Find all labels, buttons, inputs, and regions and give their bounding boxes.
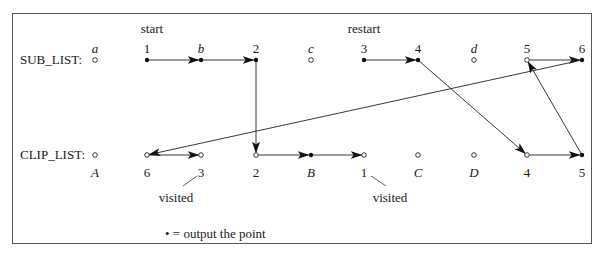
sub-list-point-4 [416, 58, 420, 62]
clip-list-label-A: A [91, 166, 99, 179]
clip-list-point-6 [145, 153, 150, 158]
diagram-graph [0, 0, 604, 258]
clip-list-label-2: 2 [253, 166, 260, 179]
clip-list-point-5 [580, 153, 584, 157]
sub-list-label-6: 6 [579, 42, 586, 55]
sub-list-label-d: d [471, 42, 478, 55]
visited-leader-line [371, 176, 386, 186]
sub-list-point-2 [254, 58, 258, 62]
sub-list-label-5: 5 [524, 42, 531, 55]
legend: • = output the point [165, 227, 266, 240]
clip-list-point-C [416, 153, 421, 158]
visited-annotation-3: visited [159, 191, 194, 204]
clip-list-point-4 [525, 153, 530, 158]
sub-list-point-3 [362, 58, 366, 62]
clip-list-point-2 [254, 153, 259, 158]
clip-list-label-C: C [414, 166, 423, 179]
filled-dot-icon: • [165, 226, 170, 241]
clip-list-label-B: B [307, 166, 315, 179]
edge-arrow [528, 62, 582, 155]
restart-annotation: restart [348, 22, 380, 35]
visited-annotation-1: visited [373, 191, 408, 204]
clip-list-label-1: 1 [361, 166, 368, 179]
sub-list-label-a: a [92, 42, 99, 55]
sub-list-label-1: 1 [144, 42, 151, 55]
clip-list-label: CLIP_LIST: [20, 148, 85, 161]
sub-list-label-c: c [308, 42, 314, 55]
sub-list-point-d [472, 58, 477, 63]
legend-text: = output the point [173, 226, 266, 241]
clip-list-label-5: 5 [579, 166, 586, 179]
start-annotation: start [141, 22, 163, 35]
clip-list-point-A [93, 153, 98, 158]
clip-list-label-4: 4 [524, 166, 531, 179]
clip-list-point-3 [199, 153, 204, 158]
clip-list-label-6: 6 [144, 166, 151, 179]
sub-list-point-c [309, 58, 314, 63]
sub-list-point-1 [145, 58, 149, 62]
clip-list-label-D: D [469, 166, 478, 179]
clip-list-point-B [309, 153, 313, 157]
sub-list-label: SUB_LIST: [20, 53, 82, 66]
sub-list-point-6 [580, 58, 584, 62]
visited-leader-line [183, 176, 197, 186]
sub-list-label-4: 4 [415, 42, 422, 55]
edge-arrow [418, 60, 525, 153]
sub-list-point-5 [525, 58, 530, 63]
sub-list-label-b: b [198, 42, 205, 55]
clip-list-label-3: 3 [198, 166, 205, 179]
edge-arrow [149, 60, 582, 154]
clip-list-point-1 [362, 153, 367, 158]
sub-list-label-3: 3 [361, 42, 368, 55]
sub-list-label-2: 2 [253, 42, 260, 55]
sub-list-point-b [199, 58, 203, 62]
clip-list-point-D [472, 153, 477, 158]
sub-list-point-a [93, 58, 98, 63]
